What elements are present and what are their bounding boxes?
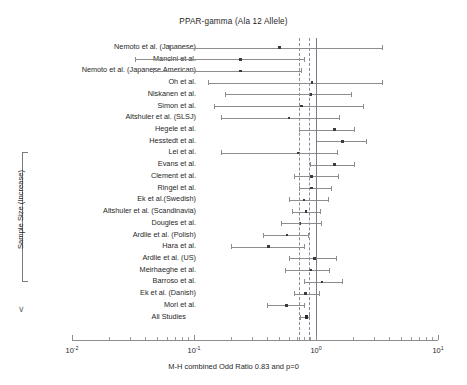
odd-ratio-marker	[286, 234, 289, 237]
x-axis-minor-tick	[432, 337, 433, 340]
odd-ratio-marker	[333, 163, 336, 166]
x-axis-minor-tick	[389, 337, 390, 340]
x-axis-title: M-H combined Odd Ratio 0.83 and p=0	[0, 362, 467, 371]
x-axis-minor-tick	[109, 337, 110, 340]
x-axis-minor-tick	[374, 337, 375, 340]
x-axis-minor-tick	[167, 337, 168, 340]
x-axis-minor-tick	[426, 337, 427, 340]
confidence-interval-cap	[214, 104, 215, 109]
confidence-interval-line	[153, 71, 302, 72]
confidence-interval-cap	[339, 115, 340, 120]
study-row-label: Meirhaeghe et al.	[140, 266, 196, 273]
confidence-interval-cap	[267, 303, 268, 308]
x-axis-minor-tick	[419, 337, 420, 340]
odd-ratio-marker	[333, 128, 336, 131]
confidence-interval-line	[221, 153, 337, 154]
null-effect-reference-line	[316, 38, 317, 340]
confidence-interval-cap	[285, 268, 286, 273]
study-row-label: Lei et al.	[168, 148, 196, 155]
confidence-interval-cap	[328, 197, 329, 202]
confidence-interval-line	[135, 59, 303, 60]
confidence-interval-line	[221, 118, 340, 119]
x-axis-minor-tick	[289, 337, 290, 340]
study-row-label: Ek et al.(Swedish)	[137, 195, 196, 202]
odd-ratio-marker	[321, 281, 324, 284]
confidence-interval-cap	[331, 186, 332, 191]
confidence-interval-cap	[382, 45, 383, 50]
x-axis-minor-tick	[267, 337, 268, 340]
odd-ratio-marker	[239, 58, 242, 61]
confidence-interval-cap	[310, 162, 311, 167]
x-axis-minor-tick	[130, 337, 131, 340]
confidence-interval-line	[285, 270, 329, 271]
confidence-interval-cap	[169, 45, 170, 50]
odd-ratio-marker	[303, 199, 306, 202]
confidence-interval-cap	[342, 279, 343, 284]
confidence-interval-cap	[351, 92, 352, 97]
odd-ratio-marker	[239, 70, 242, 73]
confidence-interval-cap	[363, 104, 364, 109]
confidence-interval-cap	[281, 221, 282, 226]
confidence-interval-cap	[289, 197, 290, 202]
study-row-label: Evans et al.	[158, 160, 196, 167]
confidence-interval-cap	[354, 162, 355, 167]
confidence-interval-line	[208, 83, 382, 84]
study-row-label: Clement et al.	[151, 172, 196, 179]
confidence-interval-cap	[292, 209, 293, 214]
summary-row-label: All Studies	[152, 313, 186, 320]
confidence-interval-cap	[294, 174, 295, 179]
confidence-interval-cap	[301, 68, 302, 73]
odd-ratio-marker	[278, 46, 281, 49]
x-axis-tick-label: 100	[310, 346, 321, 355]
x-axis-minor-tick	[157, 337, 158, 340]
pooled-ci-reference-line-lower	[299, 38, 300, 340]
study-row-label: Barroso et al.	[153, 277, 196, 284]
study-row-label: Ardlie et al. (US)	[142, 254, 196, 261]
confidence-interval-line	[214, 106, 364, 107]
odd-ratio-marker	[288, 117, 291, 120]
confidence-interval-cap	[294, 291, 295, 296]
x-axis-tick-label: 10-2	[66, 346, 79, 355]
study-row-label: Oh et al.	[168, 78, 196, 85]
study-row-label: Altshuler et al. (SLSJ)	[125, 113, 196, 120]
confidence-interval-cap	[354, 127, 355, 132]
confidence-interval-cap	[321, 221, 322, 226]
x-axis-minor-tick	[304, 337, 305, 340]
confidence-interval-cap	[135, 57, 136, 62]
odd-ratio-marker	[304, 292, 307, 295]
study-row-label: Ek et al. (Danish)	[140, 289, 196, 296]
confidence-interval-cap	[304, 244, 305, 249]
x-axis-tick-label: 10-1	[188, 346, 201, 355]
forest-plot: PPAR-gamma (Ala 12 Allele) ∨ Sample Size…	[0, 0, 467, 385]
confidence-interval-cap	[225, 92, 226, 97]
odd-ratio-marker	[285, 304, 288, 307]
odd-ratio-marker	[300, 105, 303, 108]
x-axis-tick-label: 101	[432, 346, 443, 355]
study-row-label: Ardlie et al. (Polish)	[133, 231, 196, 238]
confidence-interval-cap	[221, 115, 222, 120]
confidence-interval-cap	[300, 315, 301, 320]
x-axis-minor-tick	[175, 337, 176, 340]
x-axis-minor-tick	[411, 337, 412, 340]
confidence-interval-cap	[208, 80, 209, 85]
odd-ratio-marker	[310, 187, 313, 190]
x-axis-minor-tick	[279, 337, 280, 340]
x-axis-major-tick	[194, 335, 195, 340]
confidence-interval-cap	[319, 291, 320, 296]
odd-ratio-marker	[311, 81, 314, 84]
x-axis-minor-tick	[252, 337, 253, 340]
study-row-label: Hara et al.	[162, 242, 196, 249]
odd-ratio-marker	[305, 210, 308, 213]
x-axis-minor-tick	[231, 337, 232, 340]
x-axis-minor-tick	[182, 337, 183, 340]
confidence-interval-cap	[289, 256, 290, 261]
x-axis-minor-tick	[188, 337, 189, 340]
confidence-interval-cap	[153, 68, 154, 73]
odd-ratio-marker	[267, 245, 270, 248]
confidence-interval-line	[299, 130, 354, 131]
x-axis-major-tick	[316, 335, 317, 340]
x-axis-minor-tick	[297, 337, 298, 340]
confidence-interval-cap	[320, 209, 321, 214]
x-axis-major-tick	[72, 335, 73, 340]
pooled-ci-reference-line-upper	[309, 38, 310, 340]
